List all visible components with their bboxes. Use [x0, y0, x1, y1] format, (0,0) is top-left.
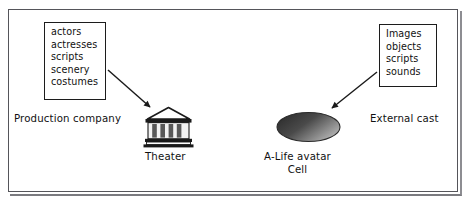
- alife-cell-label: A-Life avatar Cell: [264, 150, 331, 176]
- production-company-label: Production company: [14, 113, 121, 124]
- item-scripts-right: scripts: [386, 53, 431, 66]
- item-images: Images: [386, 28, 431, 41]
- item-actors: actors: [51, 26, 100, 39]
- item-objects: objects: [386, 41, 431, 54]
- external-cast-label: External cast: [370, 113, 439, 124]
- item-sounds: sounds: [386, 66, 431, 79]
- item-actresses: actresses: [51, 39, 100, 52]
- production-company-items-box: actors actresses scripts scenery costume…: [44, 22, 106, 100]
- item-costumes: costumes: [51, 76, 100, 89]
- item-scenery: scenery: [51, 64, 100, 77]
- alife-cell-label-line1: A-Life avatar: [264, 150, 331, 163]
- item-scripts: scripts: [51, 51, 100, 64]
- theater-label: Theater: [145, 151, 186, 162]
- external-cast-items-box: Images objects scripts sounds: [379, 24, 437, 87]
- alife-cell-label-line2: Cell: [264, 163, 331, 176]
- figure-canvas: actors actresses scripts scenery costume…: [0, 0, 467, 205]
